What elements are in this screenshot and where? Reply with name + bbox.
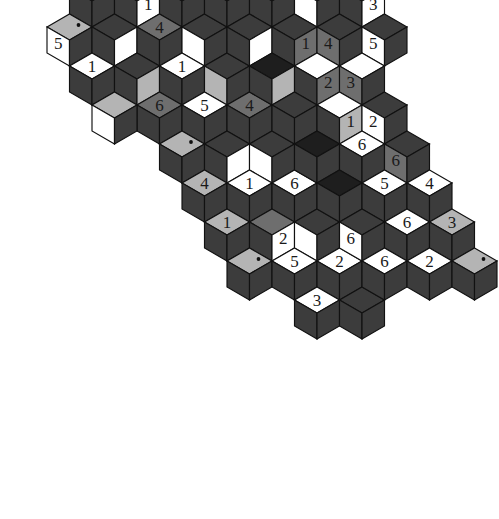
corner-dot-icon — [189, 140, 193, 144]
corner-dot-icon — [482, 257, 486, 261]
tiles-layer[interactable] — [47, 0, 497, 339]
puzzle-canvas: 6652415313541311145654231241666125452663… — [0, 0, 499, 519]
corner-dot-icon — [257, 257, 261, 261]
corner-dot-icon — [77, 23, 81, 27]
rhombille-tiling[interactable]: 6652415313541311145654231241666125452663… — [0, 0, 499, 519]
